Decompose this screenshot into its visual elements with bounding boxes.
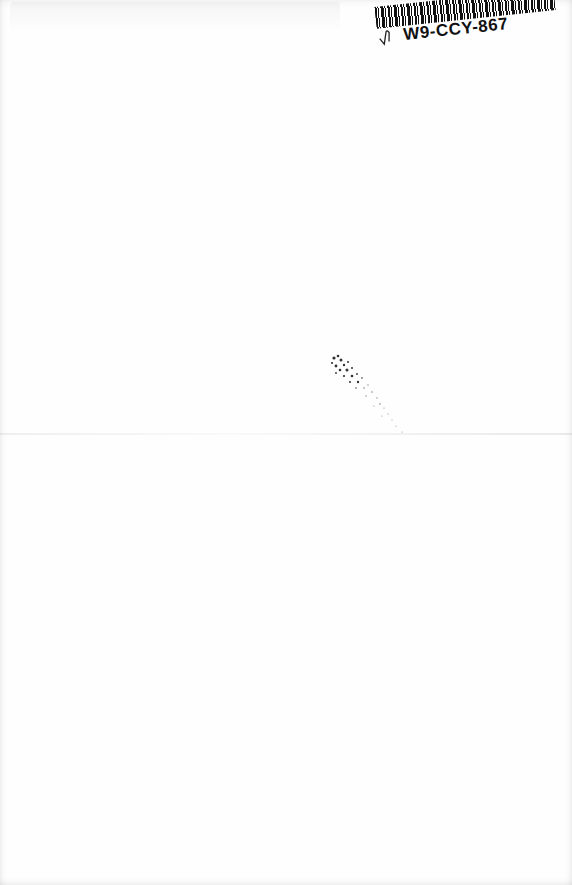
bleed-through-smudge xyxy=(10,2,340,32)
handwritten-tick-icon xyxy=(377,27,397,47)
barcode-sticker: W9-CCY-867 xyxy=(364,0,572,50)
scanned-page: W9-CCY-867 xyxy=(0,0,572,885)
fold-line xyxy=(0,433,572,435)
